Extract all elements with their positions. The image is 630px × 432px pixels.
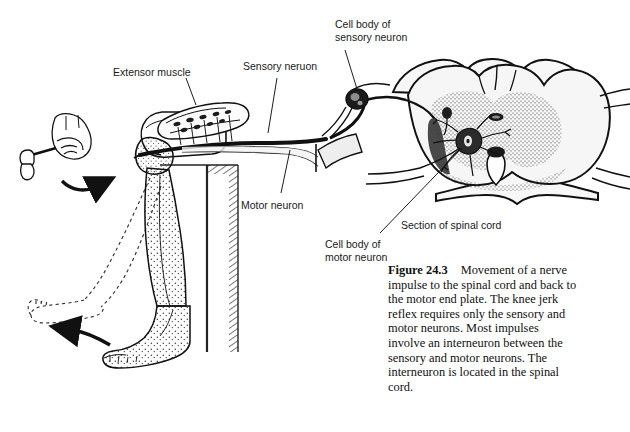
leader-cell-body-sensory [345, 50, 357, 89]
leader-extensor-muscle [186, 78, 196, 105]
extensor-muscle [158, 103, 249, 139]
spinal-cord-section [322, 59, 630, 204]
figure-caption: Figure 24.3Movement of a nerve impulse t… [388, 263, 578, 394]
hand [52, 114, 91, 159]
leader-motor-neuron [281, 150, 290, 193]
lower-leg [145, 168, 186, 306]
label-cell-body-motor-line2: motor neuron [325, 251, 387, 264]
label-extensor-muscle: Extensor muscle [113, 66, 191, 79]
leader-sensory-neuron [268, 78, 277, 133]
label-cell-body-sensory-line2: sensory neuron [335, 31, 407, 44]
figure-number: Figure 24.3 [388, 263, 448, 277]
label-cell-body-motor-line1: Cell body of [325, 238, 380, 251]
kicked-leg-outline [28, 178, 161, 323]
central-canal [489, 113, 504, 121]
strike-arrow [62, 181, 95, 190]
dorsal-root-ganglion [346, 89, 368, 109]
label-cell-body-sensory-line1: Cell body of [335, 18, 390, 31]
kick-arrow [73, 330, 110, 345]
label-section-of-spinal-cord: Section of spinal cord [401, 219, 501, 232]
reflex-hammer [20, 148, 56, 180]
foot [103, 306, 190, 368]
label-sensory-neuron: Sensory neruon [243, 60, 317, 73]
label-motor-neuron: Motor neuron [241, 199, 303, 212]
figure-container: Extensor muscle Sensory neruon Motor neu… [0, 0, 630, 432]
figure-caption-text: Movement of a nerve impulse to the spina… [388, 263, 576, 394]
ventral-root [366, 168, 424, 184]
